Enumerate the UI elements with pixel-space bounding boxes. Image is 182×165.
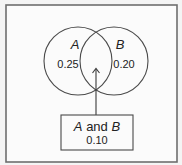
set-b-probability: 0.20 (113, 58, 134, 70)
set-a-probability: 0.25 (57, 58, 78, 70)
intersection-label: A and B (73, 119, 121, 134)
set-a-label: A (70, 37, 80, 52)
intersection-label-b: B (111, 119, 120, 134)
intersection-label-a: A (73, 119, 83, 134)
set-b-label: B (116, 37, 125, 52)
venn-diagram: A B 0.25 0.20 A and B 0.10 (0, 0, 182, 165)
intersection-probability: 0.10 (86, 134, 107, 146)
intersection-label-and: and (83, 119, 112, 134)
